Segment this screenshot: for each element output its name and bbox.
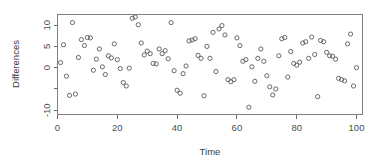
data-point [178,91,182,95]
data-point [271,93,275,97]
data-point [277,54,281,58]
data-point [70,20,74,24]
data-point [247,105,251,109]
data-point [208,56,212,60]
data-point [286,75,290,79]
data-point [109,56,113,60]
data-point [124,84,128,88]
data-point [351,84,355,88]
data-point [169,20,173,24]
data-point [289,49,293,53]
data-point [214,69,218,73]
data-point [181,72,185,76]
x-tick-label: 60 [232,122,243,133]
data-point [199,56,203,60]
data-point [103,72,107,76]
data-point [259,47,263,51]
data-point [139,41,143,45]
data-point [88,36,92,40]
data-point [148,52,152,56]
x-tick-label: 100 [349,122,365,133]
data-point [64,74,68,78]
x-axis-title: Time [200,146,221,157]
data-point [115,58,119,62]
data-point [163,49,167,53]
data-point [223,33,227,37]
data-point [94,57,98,61]
data-point [345,42,349,46]
scatter-plot-figure: 1050-10 020406080100 Differences Time [0,0,385,166]
data-point [154,62,158,66]
data-point [310,35,314,39]
y-axis-title: Differences [10,40,21,88]
data-point [79,38,83,42]
data-point [58,60,62,64]
data-point [61,43,65,47]
data-point [253,79,257,83]
data-point [118,66,122,70]
y-axis-ticks [54,25,58,110]
data-point [202,94,206,98]
data-point [238,43,242,47]
data-point [274,87,278,91]
data-point [166,57,170,61]
y-axis-tick-labels: 1050-10 [41,20,52,117]
x-tick-label: 40 [172,122,183,133]
data-point [172,69,176,73]
data-point [232,78,236,82]
x-axis-ticks [58,115,357,119]
data-point [73,92,77,96]
data-point [184,64,188,68]
y-tick-label: 0 [41,65,52,70]
data-point [91,68,95,72]
data-point [262,59,266,63]
data-point [142,53,146,57]
y-tick-label: -10 [41,103,52,117]
data-point [298,60,302,64]
data-point [136,23,140,27]
x-tick-label: 0 [55,122,60,133]
data-point [127,66,131,70]
x-tick-label: 80 [291,122,302,133]
data-point [333,57,337,61]
data-point [307,56,311,60]
plot-canvas: 1050-10 020406080100 Differences Time [0,0,385,166]
data-point [220,23,224,27]
x-tick-label: 20 [112,122,123,133]
y-tick-label: 10 [41,20,52,31]
data-point [97,47,101,51]
data-point [67,93,71,97]
data-point [265,74,269,78]
y-tick-label: 5 [41,44,52,49]
data-point [82,43,86,47]
data-point [250,65,254,69]
data-point [211,30,215,34]
x-axis-tick-labels: 020406080100 [55,122,365,133]
data-point [112,42,116,46]
data-point [100,65,104,69]
data-point [157,47,161,51]
data-point [268,85,272,89]
data-point [316,95,320,99]
data-points-layer [58,15,358,109]
data-point [313,52,317,56]
data-point [76,55,80,59]
data-point [205,44,209,48]
data-point [354,66,358,70]
data-point [235,36,239,40]
data-point [256,56,260,60]
data-point [348,32,352,36]
